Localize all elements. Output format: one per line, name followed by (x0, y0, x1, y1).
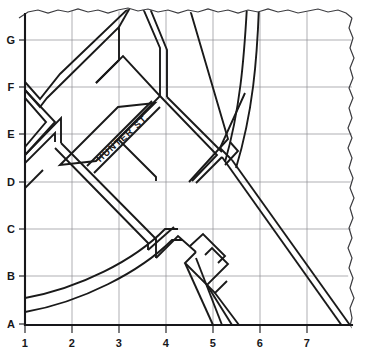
row-label-D: D (7, 176, 15, 188)
row-label-G: G (7, 34, 16, 46)
col-label-4: 4 (163, 337, 170, 349)
col-label-5: 5 (210, 337, 216, 349)
row-label-B: B (7, 270, 15, 282)
map-drawing: G F E D C B A 1 2 3 4 5 6 7 HUNTER ST. (0, 0, 373, 355)
row-label-F: F (8, 81, 15, 93)
col-label-2: 2 (69, 337, 75, 349)
map-container: G F E D C B A 1 2 3 4 5 6 7 HUNTER ST. (0, 0, 373, 355)
col-label-3: 3 (116, 337, 122, 349)
row-label-A: A (7, 318, 15, 330)
paper-background (0, 0, 373, 355)
col-label-7: 7 (304, 337, 310, 349)
col-label-6: 6 (257, 337, 263, 349)
row-label-E: E (7, 128, 15, 140)
col-label-1: 1 (22, 337, 28, 349)
row-label-C: C (7, 223, 15, 235)
